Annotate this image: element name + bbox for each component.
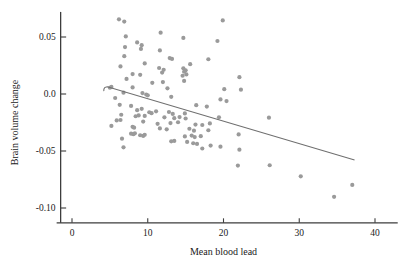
scatter-plot: 0102030400.050.0-0.05-0.10Mean blood lea… [0, 0, 417, 260]
data-point [131, 85, 135, 89]
y-axis-tick-label: -0.05 [36, 146, 56, 156]
data-point [118, 118, 122, 122]
data-point [159, 31, 163, 35]
x-axis-tick-label: 10 [143, 228, 153, 238]
y-axis-title: Brain volume change [9, 79, 20, 165]
data-point [171, 112, 175, 116]
figure-container: 0102030400.050.0-0.05-0.10Mean blood lea… [0, 0, 417, 260]
data-point [138, 73, 142, 77]
data-point [162, 115, 166, 119]
data-point [118, 103, 122, 107]
data-point [140, 91, 144, 95]
data-point [122, 54, 126, 58]
data-point [208, 121, 212, 125]
data-point [135, 108, 139, 112]
data-point [172, 116, 176, 120]
data-point [222, 87, 226, 91]
data-point [161, 80, 165, 84]
data-point [120, 137, 124, 141]
x-axis-tick-label: 20 [219, 228, 229, 238]
data-point [268, 163, 272, 167]
data-point [137, 113, 141, 117]
data-point [237, 148, 241, 152]
data-point [221, 18, 225, 22]
data-point [140, 107, 144, 111]
data-point [158, 126, 162, 130]
data-point [149, 111, 153, 115]
data-point [195, 142, 199, 146]
data-point [205, 104, 209, 108]
data-point [350, 183, 354, 187]
data-point [123, 45, 127, 49]
data-point [143, 61, 147, 65]
data-point [176, 120, 180, 124]
x-axis-tick-label: 30 [295, 228, 305, 238]
data-point [332, 195, 336, 199]
data-point [183, 134, 187, 138]
data-point [236, 163, 240, 167]
data-point [165, 86, 169, 90]
data-point [218, 145, 222, 149]
data-point [224, 99, 228, 103]
data-point [135, 40, 139, 44]
data-point [199, 134, 203, 138]
data-point [239, 88, 243, 92]
data-point [200, 146, 204, 150]
data-point [140, 43, 144, 47]
data-point [206, 128, 210, 132]
data-point [170, 57, 174, 61]
regression-line [104, 87, 355, 160]
data-point [143, 114, 147, 118]
data-point [122, 20, 126, 24]
x-axis-title: Mean blood lead [190, 246, 257, 257]
data-point [188, 62, 192, 66]
data-point [206, 57, 210, 61]
data-point [168, 121, 172, 125]
data-point [183, 111, 187, 115]
data-point [194, 103, 198, 107]
x-axis-tick-label: 0 [70, 228, 75, 238]
data-point [165, 127, 169, 131]
data-point [113, 96, 117, 100]
data-point [184, 116, 188, 120]
data-point [184, 72, 188, 76]
data-point [129, 104, 133, 108]
data-point [118, 64, 122, 68]
data-point [154, 109, 158, 113]
data-point [237, 132, 241, 136]
data-point [139, 47, 143, 51]
data-point [124, 34, 128, 38]
data-point [177, 115, 181, 119]
data-point [119, 113, 123, 117]
data-point [158, 48, 162, 52]
data-point [193, 122, 197, 126]
data-point [115, 118, 119, 122]
data-point [167, 110, 171, 114]
data-point [218, 97, 222, 101]
data-point [132, 126, 136, 130]
data-point [121, 145, 125, 149]
data-point [215, 39, 219, 43]
axis-layer [57, 12, 398, 223]
data-point [133, 131, 137, 135]
data-point [180, 74, 184, 78]
data-point [117, 17, 121, 21]
data-point [155, 122, 159, 126]
data-point [192, 129, 196, 133]
data-point [146, 93, 150, 97]
data-point [185, 140, 189, 144]
data-point [187, 127, 191, 131]
data-point [157, 66, 161, 70]
data-point [299, 174, 303, 178]
x-axis-tick-label: 40 [370, 228, 380, 238]
data-point [209, 143, 213, 147]
y-axis-tick-label: 0.05 [39, 32, 56, 42]
data-point [172, 139, 176, 143]
data-point [124, 77, 128, 81]
data-point [131, 72, 135, 76]
data-point [267, 116, 271, 120]
data-points-layer [108, 17, 355, 199]
y-axis-tick-label: 0.0 [44, 89, 56, 99]
y-axis-tick-label: -0.10 [36, 203, 56, 213]
data-point [182, 79, 186, 83]
